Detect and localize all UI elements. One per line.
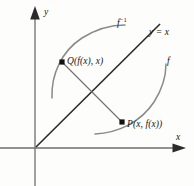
x-axis — [0, 143, 186, 152]
point-q-label: Q(f(x), x) — [67, 57, 103, 67]
point-marker-p — [119, 119, 124, 124]
function-inverse-diagram: y x f−1 y = x f Q(f(x), x) P(x, f(x)) — [0, 0, 194, 186]
x-axis-label: x — [176, 133, 180, 143]
y-axis — [30, 6, 40, 186]
identity-line-label: y = x — [149, 28, 169, 38]
point-p-label: P(x, f(x)) — [127, 120, 162, 130]
point-marker-q — [59, 59, 64, 64]
x-axis-arrowhead — [173, 143, 187, 152]
y-axis-arrowhead — [30, 6, 40, 20]
function-label: f — [167, 57, 170, 67]
inverse-function-label: f−1 — [117, 17, 127, 29]
y-axis-label: y — [44, 8, 48, 18]
inverse-function-label-exponent: −1 — [120, 16, 127, 23]
